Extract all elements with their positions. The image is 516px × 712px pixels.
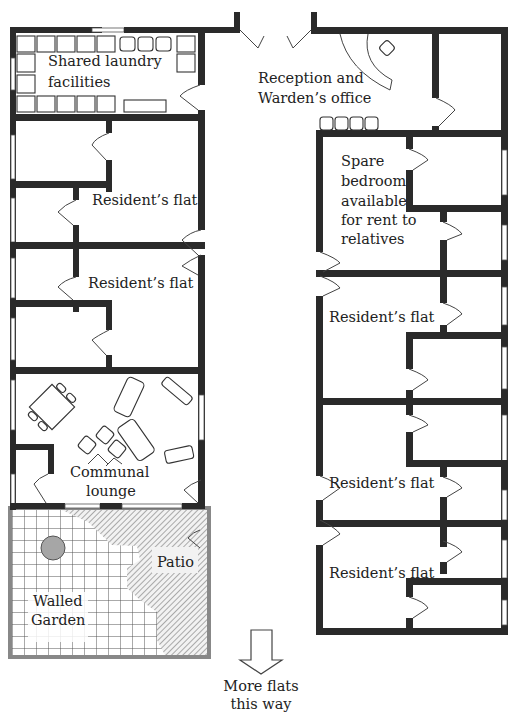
- label-right-flat-1: Resident’s flat: [329, 309, 435, 325]
- office-chair: [379, 40, 396, 57]
- door-left-flat-2-room[interactable]: [92, 330, 109, 355]
- label-lounge-1: Communal: [70, 464, 150, 480]
- door-left-flat-1-bed[interactable]: [58, 200, 76, 225]
- label-spare-4: for rent to: [341, 212, 416, 228]
- entrance-post-left: [234, 12, 240, 33]
- door-laundry[interactable]: [180, 85, 200, 110]
- door-right-flat-2-room[interactable]: [409, 415, 428, 432]
- door-spare-entry[interactable]: [320, 252, 340, 272]
- door-right-flat-1-entry[interactable]: [320, 276, 340, 296]
- door-lounge-closet[interactable]: [34, 474, 48, 503]
- door-right-flat-1-bed[interactable]: [443, 303, 462, 325]
- entrance-double-door[interactable]: [240, 30, 311, 48]
- label-laundry-1: Shared laundry: [48, 53, 162, 69]
- door-right-flat-1-room[interactable]: [409, 369, 428, 390]
- label-reception-2: Warden’s office: [258, 90, 371, 106]
- door-spare-1[interactable]: [409, 149, 428, 170]
- door-right-flat-3-room[interactable]: [409, 597, 428, 618]
- label-left-flat-1: Resident’s flat: [92, 192, 198, 208]
- walled-garden-area: [10, 508, 209, 657]
- label-left-flat-2: Resident’s flat: [88, 275, 194, 291]
- gray-circle-icon: [41, 536, 65, 560]
- label-patio: Patio: [157, 554, 194, 570]
- label-spare-2: bedroom: [341, 173, 407, 189]
- label-more-flats-2: this way: [230, 696, 292, 712]
- label-garden-1: Walled: [33, 593, 82, 609]
- label-more-flats-1: More flats: [223, 678, 298, 694]
- arrow-down-outline-icon: [240, 630, 282, 674]
- label-right-flat-2: Resident’s flat: [329, 475, 435, 491]
- floor-plan: Shared laundry facilities Reception and …: [0, 0, 516, 712]
- label-laundry-2: facilities: [48, 74, 111, 90]
- label-reception-1: Reception and: [258, 70, 364, 86]
- label-spare-3: available: [341, 193, 407, 209]
- door-left-flat-2-bed[interactable]: [58, 277, 76, 300]
- label-lounge-2: lounge: [86, 483, 136, 499]
- label-spare-1: Spare: [341, 153, 384, 169]
- label-spare-5: relatives: [341, 231, 404, 247]
- door-right-flat-2-bed[interactable]: [443, 477, 462, 497]
- label-garden-2: Garden: [31, 612, 85, 628]
- door-left-flat-1-room[interactable]: [92, 133, 109, 160]
- door-spare-2[interactable]: [443, 222, 462, 240]
- label-right-flat-3: Resident’s flat: [329, 565, 435, 581]
- door-reception-side[interactable]: [436, 98, 455, 126]
